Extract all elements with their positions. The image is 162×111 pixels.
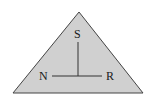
label-s: S	[74, 27, 81, 41]
label-n: N	[39, 69, 48, 83]
label-r: R	[106, 69, 114, 83]
triangle-diagram: S N R	[0, 0, 162, 111]
